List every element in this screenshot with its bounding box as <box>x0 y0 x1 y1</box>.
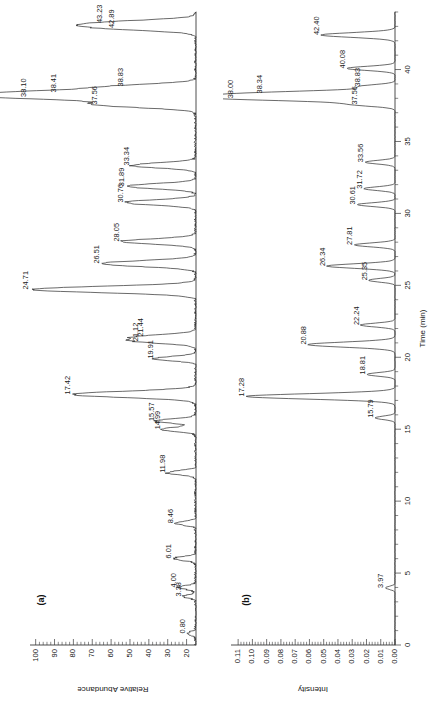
y-tick-label: 30 <box>163 649 172 657</box>
figure-root: 0.803.384.006.018.4611.9814.9915.5717.42… <box>0 0 446 708</box>
chromatogram-panel-a: 0.803.384.006.018.4611.9814.9915.5717.42… <box>0 0 223 708</box>
y-tick-label: 0.00 <box>390 649 399 664</box>
peak-label: 28.05 <box>112 223 121 242</box>
peak-annotation: 43.23 <box>95 5 104 24</box>
y-tick-label: 0.08 <box>276 649 285 664</box>
x-tick-label: 5 <box>403 571 412 575</box>
peak-label: 8.46 <box>166 509 175 523</box>
y-axis-title: Relative Abundance <box>77 685 149 694</box>
peak-label: 19.91 <box>146 340 155 359</box>
peak-label: 38.34 <box>255 75 264 94</box>
y-tick-label: 0.07 <box>290 649 299 664</box>
peak-annotation: 19.91 <box>146 340 155 359</box>
peak-annotation: 20.88 <box>299 326 308 345</box>
peak-label: 31.72 <box>355 170 364 189</box>
y-tick-label: 80 <box>68 649 77 657</box>
peak-annotation: 17.28 <box>237 378 246 397</box>
peak-annotation: 33.34 <box>122 147 131 166</box>
peak-annotation: 31.72 <box>355 170 364 189</box>
peak-label: 38.83 <box>116 68 125 87</box>
peak-label: 20.88 <box>299 326 308 345</box>
peak-annotation: 0.80 <box>178 619 187 633</box>
peak-annotation: 33.56 <box>356 144 365 163</box>
peak-annotation: 38.41 <box>49 74 58 93</box>
peak-annotation: 3.97 <box>376 574 385 588</box>
peak-annotation: 42.40 <box>312 17 321 36</box>
x-tick-label: 40 <box>403 65 412 73</box>
y-tick-label: 40 <box>144 649 153 657</box>
peak-label: 24.71 <box>21 271 30 290</box>
y-tick-label: 0.02 <box>362 649 371 664</box>
peak-annotation: 25.35 <box>360 262 369 281</box>
x-tick-label: 25 <box>403 281 412 289</box>
y-tick-label: 0.04 <box>333 649 342 664</box>
peak-label: 15.57 <box>147 403 156 422</box>
peak-label: 21.44 <box>136 318 145 337</box>
y-tick-label: 100 <box>31 649 40 662</box>
x-tick-label: 15 <box>403 425 412 433</box>
peak-label: 15.79 <box>366 399 375 418</box>
peak-annotation: 21.44 <box>136 318 145 337</box>
peak-annotation: 38.83 <box>116 68 125 87</box>
y-tick-label: 0.11 <box>233 649 242 663</box>
peak-annotation: 40.08 <box>338 50 347 69</box>
peak-label: 17.28 <box>237 378 246 397</box>
peak-label: 43.23 <box>95 5 104 24</box>
peak-label: 31.89 <box>117 168 126 187</box>
peak-annotation: 26.34 <box>318 248 327 267</box>
x-axis-title: Time (min) <box>418 309 427 347</box>
panel-tag: (b) <box>241 594 251 606</box>
peak-annotation: 37.56 <box>350 86 359 105</box>
y-tick-label: 0.09 <box>262 649 271 664</box>
peak-label: 38.83 <box>353 68 362 87</box>
peak-annotation: 38.00 <box>226 80 235 99</box>
peak-annotation: 42.89 <box>107 10 116 29</box>
peak-annotation: 31.89 <box>117 168 126 187</box>
peak-label: 18.81 <box>358 356 367 375</box>
peak-annotation: 24.71 <box>21 271 30 290</box>
peak-annotation: 22.24 <box>352 307 361 326</box>
peak-label: 22.24 <box>352 307 361 326</box>
peak-annotation: 15.79 <box>366 399 375 418</box>
y-tick-label: 0.01 <box>376 649 385 664</box>
peak-label: 27.81 <box>345 226 354 245</box>
x-tick-label: 0 <box>403 643 412 647</box>
peak-label: 33.34 <box>122 147 131 166</box>
peak-annotation: 6.01 <box>164 544 173 558</box>
peak-label: 4.00 <box>169 573 178 587</box>
peak-annotation: 38.83 <box>353 68 362 87</box>
peak-label: 25.35 <box>360 262 369 281</box>
peak-label: 11.98 <box>158 455 167 473</box>
peak-label: 3.97 <box>376 574 385 588</box>
peak-annotation: 11.98 <box>158 455 167 473</box>
y-tick-label: 70 <box>87 649 96 657</box>
y-tick-label: 0.10 <box>247 649 256 664</box>
y-tick-label: 0.05 <box>319 649 328 664</box>
peak-annotation: 4.00 <box>169 573 178 587</box>
x-tick-label: 10 <box>403 497 412 505</box>
peak-label: 26.51 <box>92 245 101 264</box>
peak-annotation: 28.05 <box>112 223 121 242</box>
peak-annotation: 26.51 <box>92 245 101 264</box>
x-tick-label: 20 <box>403 353 412 361</box>
peak-label: 38.10 <box>19 78 28 97</box>
peak-annotation: 17.42 <box>63 376 72 395</box>
peak-label: 0.80 <box>178 619 187 633</box>
peak-annotation: 15.57 <box>147 403 156 422</box>
peak-annotation: 18.81 <box>358 356 367 375</box>
y-tick-label: 90 <box>50 649 59 657</box>
peak-label: 38.41 <box>49 74 58 93</box>
peak-label: 37.56 <box>350 86 359 105</box>
peak-label: 37.56 <box>90 86 99 105</box>
peak-label: 40.08 <box>338 50 347 69</box>
peak-label: 33.56 <box>356 144 365 163</box>
y-tick-label: 60 <box>106 649 115 657</box>
peak-label: 42.89 <box>107 10 116 29</box>
peak-label: 38.00 <box>226 80 235 99</box>
x-tick-label: 35 <box>403 137 412 145</box>
y-tick-label: 20 <box>182 649 191 657</box>
peak-label: 6.01 <box>164 544 173 558</box>
panel-tag: (a) <box>36 594 46 605</box>
x-tick-label: 30 <box>403 209 412 217</box>
peak-annotation: 37.56 <box>90 86 99 105</box>
